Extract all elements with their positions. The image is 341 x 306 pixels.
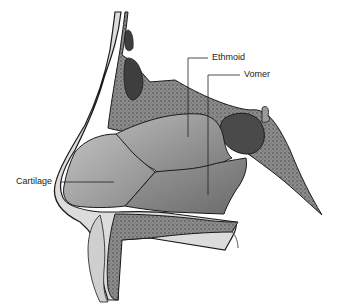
sphenoid-hook — [262, 106, 270, 122]
palate-bone — [107, 214, 238, 300]
label-ethmoid: Ethmoid — [212, 52, 245, 62]
sphenoid-sinus — [220, 113, 264, 154]
septum-illustration — [0, 0, 341, 306]
frontal-sinus — [124, 58, 143, 100]
label-vomer: Vomer — [244, 69, 270, 79]
nasal-septum-diagram: Ethmoid Vomer Cartilage — [0, 0, 341, 306]
upper-sinus — [125, 30, 134, 51]
label-cartilage: Cartilage — [16, 176, 52, 186]
